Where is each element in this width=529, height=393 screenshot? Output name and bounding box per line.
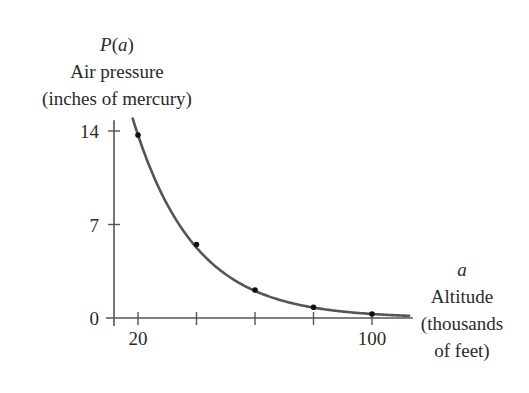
axes: 071420100 bbox=[80, 120, 413, 349]
data-point bbox=[135, 132, 141, 138]
y-axis-label-line1: Air pressure bbox=[70, 61, 163, 82]
x-axis-title: a Altitude (thousands of feet) bbox=[421, 259, 503, 362]
plot-area bbox=[133, 119, 409, 317]
x-axis-label-line1: Altitude bbox=[431, 286, 493, 307]
y-axis-label-line2: (inches of mercury) bbox=[42, 88, 192, 110]
data-point bbox=[194, 242, 200, 248]
x-tick-label: 100 bbox=[358, 328, 387, 349]
y-tick-label: 0 bbox=[90, 308, 100, 329]
x-axis-symbol: a bbox=[457, 259, 467, 280]
x-axis-label-line2: (thousands bbox=[421, 313, 503, 335]
y-tick-label: 14 bbox=[80, 121, 100, 142]
y-axis-symbol: P(a) bbox=[99, 34, 134, 56]
y-tick-label: 7 bbox=[90, 215, 100, 236]
x-tick-label: 20 bbox=[129, 328, 148, 349]
air-pressure-chart: P(a) Air pressure (inches of mercury) 07… bbox=[0, 0, 529, 393]
data-point bbox=[311, 305, 317, 311]
y-axis-title: P(a) Air pressure (inches of mercury) bbox=[42, 34, 192, 110]
data-point bbox=[252, 287, 258, 293]
pressure-curve bbox=[133, 119, 409, 316]
x-axis-label-line3: of feet) bbox=[434, 340, 489, 362]
data-point bbox=[369, 311, 375, 317]
